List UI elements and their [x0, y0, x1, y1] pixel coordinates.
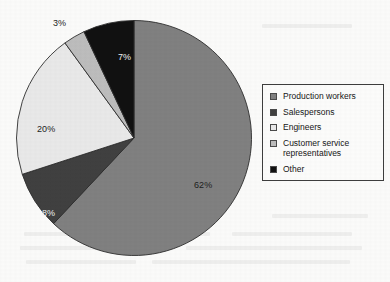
scan-artifact	[26, 260, 136, 264]
scan-artifact	[152, 260, 350, 264]
slice-label-engineers: 20%	[37, 124, 55, 134]
slice-label-customer-service: 3%	[53, 18, 66, 28]
legend-swatch-salespersons	[270, 109, 277, 116]
legend-swatch-other	[270, 166, 277, 173]
legend-label-other: Other	[283, 164, 304, 175]
legend-item-salespersons[interactable]: Salespersons	[270, 107, 378, 118]
slice-label-salespersons: 8%	[42, 208, 55, 218]
legend-swatch-customer-service	[270, 140, 277, 147]
scan-artifact	[262, 24, 352, 28]
legend-swatch-production-workers	[270, 93, 277, 100]
chart-legend: Production workers Salespersons Engineer…	[262, 84, 384, 181]
legend-label-production-workers: Production workers	[283, 91, 356, 102]
legend-item-customer-service[interactable]: Customer service representatives	[270, 138, 378, 159]
legend-label-engineers: Engineers	[283, 122, 321, 133]
legend-label-salespersons: Salespersons	[283, 107, 335, 118]
legend-item-engineers[interactable]: Engineers	[270, 122, 378, 133]
slice-label-production-workers: 62%	[194, 180, 212, 190]
pie-svg	[16, 20, 252, 256]
pie-chart: 62% 8% 20% 3% 7%	[16, 20, 252, 256]
legend-swatch-engineers	[270, 124, 277, 131]
legend-item-other[interactable]: Other	[270, 164, 378, 175]
scan-artifact	[272, 214, 368, 218]
legend-item-production-workers[interactable]: Production workers	[270, 91, 378, 102]
slice-label-other: 7%	[118, 52, 131, 62]
legend-label-customer-service: Customer service representatives	[283, 138, 378, 159]
pie-slice-group	[16, 21, 251, 256]
pie-chart-figure: 62% 8% 20% 3% 7% Production workers Sale…	[0, 0, 390, 282]
